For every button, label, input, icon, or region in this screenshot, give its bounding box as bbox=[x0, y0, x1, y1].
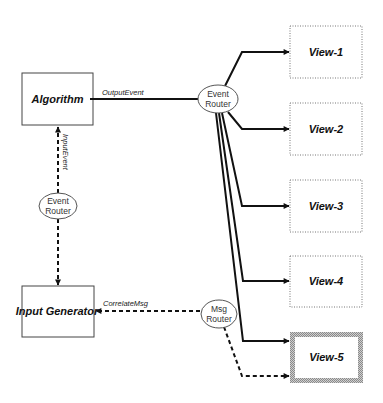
input-event-label: InputEvent bbox=[61, 134, 70, 171]
view-2-box: View-2 bbox=[290, 103, 362, 155]
correlate-msg-label: CorrelateMsg bbox=[103, 299, 149, 308]
input-generator-box: Input Generator bbox=[16, 286, 99, 337]
view-3-box: View-3 bbox=[290, 180, 362, 232]
algorithm-label: Algorithm bbox=[31, 93, 84, 105]
event-router-left: Event Router bbox=[39, 193, 77, 219]
architecture-diagram: Algorithm Input Generator OutputEvent In… bbox=[0, 0, 383, 403]
output-event-label: OutputEvent bbox=[102, 88, 145, 97]
msg-router: Msg Router bbox=[201, 300, 237, 328]
view-1-label: View-1 bbox=[309, 46, 343, 58]
view-5-box: View-5 bbox=[290, 332, 363, 383]
event-router-left-line1: Event bbox=[47, 196, 69, 206]
view-5-label: View-5 bbox=[309, 351, 344, 363]
view-4-label: View-4 bbox=[309, 275, 343, 287]
event-router-main-line2: Router bbox=[205, 99, 231, 109]
event-router-main: Event Router bbox=[198, 85, 238, 113]
view-1-box: View-1 bbox=[290, 26, 362, 78]
event-router-main-line1: Event bbox=[207, 89, 229, 99]
view-3-label: View-3 bbox=[309, 200, 343, 212]
algorithm-box: Algorithm bbox=[22, 73, 93, 125]
view-2-label: View-2 bbox=[309, 123, 343, 135]
correlate-msg-edge: CorrelateMsg bbox=[96, 299, 200, 311]
event-router-left-line2: Router bbox=[45, 206, 71, 216]
msg-router-line1: Msg bbox=[211, 304, 227, 314]
input-generator-label: Input Generator bbox=[16, 305, 99, 317]
msg-router-line2: Router bbox=[206, 314, 232, 324]
view-4-box: View-4 bbox=[290, 256, 362, 307]
msg-router-to-view5-edge bbox=[224, 327, 289, 376]
output-event-edge: OutputEvent bbox=[90, 88, 199, 99]
